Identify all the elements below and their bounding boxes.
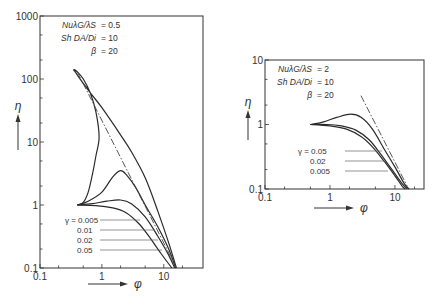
x-arrow-icon: [346, 206, 354, 211]
gamma-label: γ = 0.05: [298, 147, 327, 156]
parameter-name: β: [306, 90, 312, 100]
x-tick-label: 10: [389, 192, 401, 203]
right-plot-area: 0.11100.1110φηNuλG/λS= 2Sh DA/Di= 10β= 2…: [245, 55, 424, 216]
right-chart: 0.11100.1110φηNuλG/λS= 2Sh DA/Di= 10β= 2…: [0, 0, 435, 303]
asymptote-line: [361, 96, 407, 187]
parameter-name: Sh DA/Di: [277, 77, 313, 87]
y-arrow-icon: [246, 110, 251, 118]
x-tick-label: 0.1: [258, 192, 272, 203]
x-tick-label: 1: [327, 192, 333, 203]
parameter-value: = 10: [317, 77, 334, 87]
parameter-value: = 2: [317, 64, 329, 74]
y-axis-label: η: [245, 95, 252, 109]
gamma-label: 0.02: [310, 157, 326, 166]
y-tick-label: 10: [252, 55, 264, 66]
gamma-label: 0.005: [310, 167, 331, 176]
x-axis-label: φ: [360, 201, 368, 215]
parameter-name: NuλG/λS: [278, 64, 312, 74]
parameter-value: = 20: [317, 90, 334, 100]
y-tick-label: 1: [257, 119, 263, 130]
